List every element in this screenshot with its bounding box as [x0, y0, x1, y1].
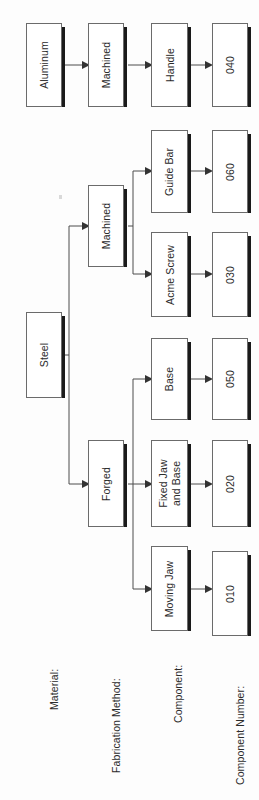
- node-aluminum[interactable]: Aluminum: [26, 23, 62, 107]
- node-acme-screw[interactable]: Acme Screw: [151, 232, 188, 317]
- node-label: Aluminum: [38, 41, 50, 88]
- node-number-060[interactable]: 060: [212, 130, 248, 213]
- box-shadow: [188, 444, 191, 527]
- node-machined-steel[interactable]: Machined: [88, 185, 124, 267]
- box-shadow: [248, 555, 251, 636]
- node-base[interactable]: Base: [151, 338, 188, 420]
- node-label: 030: [224, 266, 236, 284]
- node-label: Base: [164, 367, 176, 391]
- node-number-030[interactable]: 030: [212, 232, 248, 317]
- node-label: 020: [224, 475, 236, 493]
- row-label-fabrication-method: Fabrication Method:: [110, 678, 122, 773]
- box-shadow: [188, 134, 191, 213]
- node-guide-bar[interactable]: Guide Bar: [151, 130, 188, 213]
- node-label: Guide Bar: [164, 147, 176, 195]
- box-shadow: [188, 27, 191, 107]
- node-label: 060: [224, 163, 236, 181]
- node-label: 040: [224, 56, 236, 74]
- row-label-component: Component:: [172, 665, 184, 723]
- node-moving-jaw[interactable]: Moving Jaw: [151, 546, 188, 631]
- node-machined-aluminum[interactable]: Machined: [88, 23, 124, 107]
- node-label: 010: [224, 585, 236, 603]
- node-handle[interactable]: Handle: [151, 23, 188, 107]
- node-label: Handle: [164, 48, 176, 82]
- node-label: 050: [224, 370, 236, 388]
- row-label-component-number: Component Number:: [234, 686, 246, 785]
- box-shadow: [188, 550, 191, 631]
- node-label: Steel: [38, 343, 50, 367]
- box-shadow: [62, 27, 65, 107]
- node-number-040[interactable]: 040: [212, 23, 248, 107]
- box-shadow: [248, 236, 251, 317]
- box-shadow: [188, 342, 191, 420]
- scan-artifact-speck: [59, 195, 62, 199]
- box-shadow: [248, 134, 251, 213]
- box-shadow: [124, 27, 127, 107]
- box-shadow: [124, 444, 127, 527]
- fabrication-flowchart: Aluminum Steel Machined Machined Forged …: [0, 0, 259, 800]
- node-label: Moving Jaw: [164, 560, 176, 616]
- box-shadow: [248, 27, 251, 107]
- node-label: Machined: [100, 42, 112, 88]
- node-label: Machined: [100, 203, 112, 249]
- box-shadow: [248, 342, 251, 420]
- node-number-050[interactable]: 050: [212, 338, 248, 420]
- node-forged[interactable]: Forged: [88, 440, 124, 527]
- box-shadow: [62, 316, 65, 398]
- node-number-010[interactable]: 010: [212, 551, 248, 636]
- box-shadow: [124, 189, 127, 267]
- node-label: Acme Screw: [164, 245, 176, 305]
- node-fixed-jaw-and-base[interactable]: Fixed Jaw and Base: [151, 440, 188, 527]
- box-shadow: [248, 444, 251, 527]
- row-label-material: Material:: [48, 669, 60, 710]
- node-label: Forged: [100, 467, 112, 501]
- node-number-020[interactable]: 020: [212, 440, 248, 527]
- node-steel[interactable]: Steel: [26, 312, 62, 398]
- box-shadow: [188, 236, 191, 317]
- node-label: Fixed Jaw and Base: [157, 459, 182, 507]
